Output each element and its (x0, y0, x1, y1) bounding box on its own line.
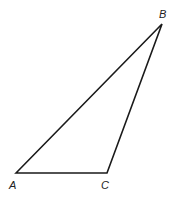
vertex-label-c: C (101, 180, 109, 191)
vertex-label-b: B (159, 9, 166, 20)
vertex-label-a: A (9, 180, 16, 191)
triangle-abc (16, 24, 162, 173)
triangle-diagram (0, 0, 173, 197)
